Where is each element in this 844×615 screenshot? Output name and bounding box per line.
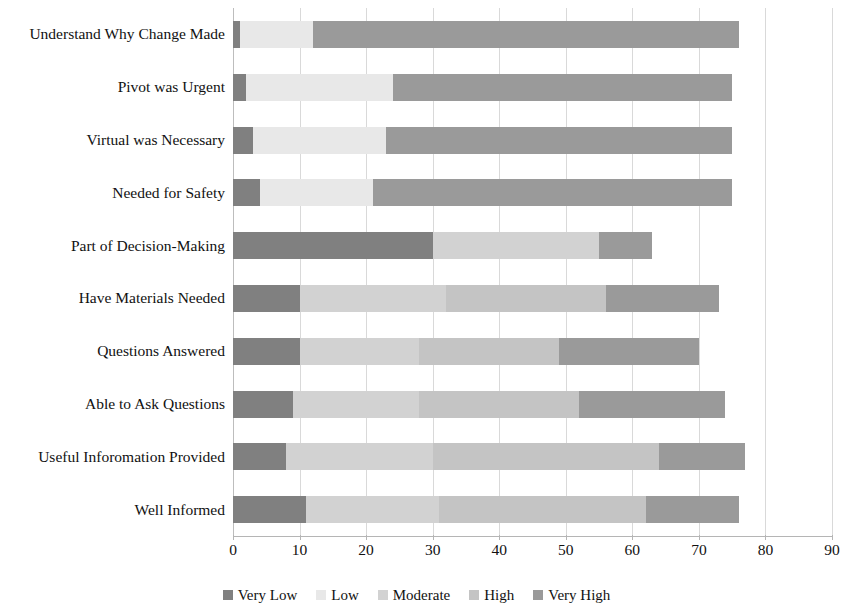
x-axis-tick-label: 90 <box>812 540 844 560</box>
bar-segment <box>260 179 373 206</box>
y-axis-label: Understand Why Change Made <box>0 25 225 43</box>
bar-segment <box>659 443 746 470</box>
legend-label: Very Low <box>238 586 298 604</box>
bar-segment <box>386 127 732 154</box>
bar-row <box>233 338 699 365</box>
bar-segment <box>233 285 300 312</box>
gridline-80 <box>765 8 766 536</box>
bar-segment <box>246 74 392 101</box>
bar-segment <box>446 285 606 312</box>
y-axis-label: Well Informed <box>0 501 225 519</box>
bar-row <box>233 21 739 48</box>
gridline-90 <box>832 8 833 536</box>
x-axis-tick-label: 20 <box>346 540 386 560</box>
bar-segment <box>300 338 420 365</box>
legend-label: Moderate <box>393 586 450 604</box>
bar-segment <box>253 127 386 154</box>
y-axis-label: Useful Inforomation Provided <box>0 448 225 466</box>
bar-row <box>233 496 739 523</box>
bar-row <box>233 391 725 418</box>
x-axis-tick-label: 70 <box>679 540 719 560</box>
bar-segment <box>433 232 599 259</box>
y-axis-label: Questions Answered <box>0 342 225 360</box>
bar-row <box>233 232 652 259</box>
legend-swatch-icon <box>469 590 479 600</box>
bar-segment <box>646 496 739 523</box>
bar-segment <box>233 496 306 523</box>
bar-segment <box>233 338 300 365</box>
bar-segment <box>599 232 652 259</box>
x-axis-tick-label: 50 <box>546 540 586 560</box>
legend-item[interactable]: Moderate <box>378 586 450 604</box>
legend-item[interactable]: Very High <box>533 586 610 604</box>
x-axis-tick-label: 0 <box>213 540 253 560</box>
x-axis-tick-label: 10 <box>280 540 320 560</box>
y-axis-label: Able to Ask Questions <box>0 395 225 413</box>
legend-item[interactable]: High <box>469 586 514 604</box>
bar-row <box>233 179 732 206</box>
bar-segment <box>579 391 725 418</box>
bar-segment <box>233 21 240 48</box>
x-axis-tick-label: 40 <box>479 540 519 560</box>
bar-row <box>233 285 719 312</box>
bar-segment <box>233 179 260 206</box>
bar-segment <box>293 391 419 418</box>
legend-item[interactable]: Very Low <box>223 586 298 604</box>
bar-segment <box>306 496 439 523</box>
bar-segment <box>233 232 433 259</box>
bar-segment <box>240 21 313 48</box>
legend-swatch-icon <box>223 590 233 600</box>
y-axis-label: Needed for Safety <box>0 184 225 202</box>
bar-segment <box>559 338 699 365</box>
x-axis-tick-label: 60 <box>612 540 652 560</box>
bar-segment <box>233 127 253 154</box>
y-axis-label: Pivot was Urgent <box>0 78 225 96</box>
bar-segment <box>606 285 719 312</box>
bar-segment <box>300 285 446 312</box>
bar-segment <box>233 74 246 101</box>
bar-segment <box>313 21 739 48</box>
bar-row <box>233 127 732 154</box>
x-axis-tick-label: 80 <box>745 540 785 560</box>
bar-segment <box>393 74 732 101</box>
bar-row <box>233 74 732 101</box>
chart-legend: Very LowLowModerateHighVery High <box>0 586 833 604</box>
legend-label: Low <box>331 586 359 604</box>
bar-segment <box>439 496 645 523</box>
bar-segment <box>233 443 286 470</box>
bar-row <box>233 443 745 470</box>
legend-swatch-icon <box>533 590 543 600</box>
legend-label: Very High <box>548 586 610 604</box>
bar-segment <box>419 391 579 418</box>
y-axis-label: Virtual was Necessary <box>0 131 225 149</box>
y-axis-label: Have Materials Needed <box>0 289 225 307</box>
x-axis-line <box>233 536 832 537</box>
bar-segment <box>286 443 432 470</box>
bar-segment <box>433 443 659 470</box>
bar-segment <box>233 391 293 418</box>
plot-area <box>233 8 832 536</box>
y-axis-label: Part of Decision-Making <box>0 237 225 255</box>
x-axis-ticks: 0102030405060708090 <box>233 540 832 564</box>
bar-segment <box>419 338 559 365</box>
x-axis-tick-label: 30 <box>413 540 453 560</box>
legend-item[interactable]: Low <box>316 586 359 604</box>
bar-segment <box>373 179 732 206</box>
y-axis-labels: Understand Why Change MadePivot was Urge… <box>0 8 225 536</box>
legend-swatch-icon <box>378 590 388 600</box>
legend-label: High <box>484 586 514 604</box>
legend-swatch-icon <box>316 590 326 600</box>
